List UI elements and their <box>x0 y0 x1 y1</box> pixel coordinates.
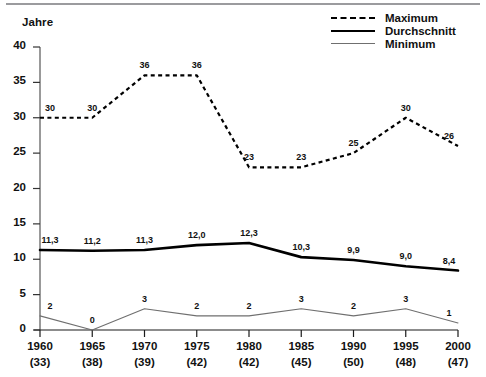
data-point-label: 12,3 <box>240 228 258 238</box>
data-point-label: 0 <box>90 315 95 325</box>
x-tick-label-year: 1995 <box>379 340 433 352</box>
y-tick-label: 15 <box>4 216 26 228</box>
y-tick-label: 10 <box>4 251 26 263</box>
data-point-label: 23 <box>244 152 254 162</box>
x-tick-label-year: 2000 <box>431 340 485 352</box>
chart-svg <box>0 0 486 377</box>
data-point-label: 25 <box>348 138 358 148</box>
data-point-label: 3 <box>299 294 304 304</box>
x-tick-label-count: (48) <box>379 356 433 368</box>
data-point-label: 36 <box>139 60 149 70</box>
data-point-label: 3 <box>142 294 147 304</box>
y-tick-label: 40 <box>4 39 26 51</box>
x-tick-label-count: (38) <box>65 356 119 368</box>
x-tick-label-year: 1960 <box>13 340 67 352</box>
data-point-label: 12,0 <box>188 230 206 240</box>
y-tick-label: 0 <box>4 322 26 334</box>
x-tick-label-count: (42) <box>222 356 276 368</box>
data-point-label: 36 <box>192 60 202 70</box>
x-tick-label-count: (33) <box>13 356 67 368</box>
data-point-label: 2 <box>194 301 199 311</box>
data-point-label: 2 <box>47 301 52 311</box>
data-point-label: 1 <box>446 308 451 318</box>
x-tick-label-count: (45) <box>274 356 328 368</box>
data-point-label: 30 <box>87 103 97 113</box>
series-line-durchschnitt <box>40 243 458 271</box>
y-tick-label: 20 <box>4 181 26 193</box>
x-tick-label-count: (50) <box>327 356 381 368</box>
data-point-label: 8,4 <box>443 256 456 266</box>
x-tick-label-count: (42) <box>170 356 224 368</box>
x-tick-label-year: 1970 <box>118 340 172 352</box>
data-point-label: 11,3 <box>136 235 153 245</box>
data-point-label: 11,2 <box>84 236 101 246</box>
data-point-label: 11,3 <box>41 235 58 245</box>
x-tick-label-year: 1965 <box>65 340 119 352</box>
x-tick-label-year: 1985 <box>274 340 328 352</box>
x-tick-label-year: 1990 <box>327 340 381 352</box>
data-point-label: 9,0 <box>399 251 412 261</box>
y-tick-label: 30 <box>4 110 26 122</box>
data-point-label: 26 <box>444 131 454 141</box>
data-point-label: 30 <box>401 103 411 113</box>
data-point-label: 10,3 <box>292 242 310 252</box>
data-point-label: 30 <box>45 103 55 113</box>
data-point-label: 23 <box>296 152 306 162</box>
data-point-label: 3 <box>403 294 408 304</box>
x-tick-label-count: (47) <box>431 356 485 368</box>
x-tick-label-count: (39) <box>118 356 172 368</box>
y-tick-label: 35 <box>4 74 26 86</box>
chart-plot-area: 05101520253035401960(33)1965(38)1970(39)… <box>0 0 486 377</box>
data-point-label: 2 <box>351 301 356 311</box>
data-point-label: 9,9 <box>347 245 360 255</box>
series-line-minimum <box>40 309 458 330</box>
y-tick-label: 5 <box>4 287 26 299</box>
x-tick-label-year: 1980 <box>222 340 276 352</box>
x-tick-label-year: 1975 <box>170 340 224 352</box>
y-tick-label: 25 <box>4 145 26 157</box>
data-point-label: 2 <box>246 301 251 311</box>
